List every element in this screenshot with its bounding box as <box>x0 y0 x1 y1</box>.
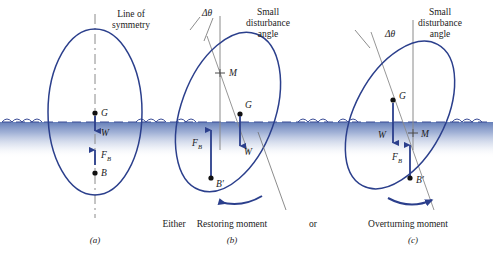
point-Bprime-c <box>407 175 412 180</box>
point-G-a <box>92 110 97 115</box>
label-G-c: G <box>399 91 406 101</box>
title-b-line1: Small <box>257 7 280 17</box>
label-W-c: W <box>378 130 387 140</box>
label-delta-theta-b: Δθ <box>201 8 213 18</box>
connector-either: Either <box>162 219 186 229</box>
title-b-line2: disturbance <box>246 18 290 28</box>
caption-a: (a) <box>90 235 101 245</box>
caption-b: (b) <box>227 235 238 245</box>
body-axis-c <box>371 32 434 210</box>
leader-delta-theta-b-right <box>204 18 213 41</box>
title-b-line3: angle <box>258 29 279 39</box>
label-M-b: M <box>228 68 238 78</box>
moment-label-c: Overturning moment <box>368 219 448 229</box>
caption-c: (c) <box>408 235 418 245</box>
title-c-line2: disturbance <box>418 18 462 28</box>
figure-canvas: Line of symmetry G W F B B (a) Small dis… <box>0 0 493 258</box>
label-F-c: F <box>391 152 398 162</box>
label-W-a: W <box>101 128 110 138</box>
overturning-moment-arrow <box>388 198 432 205</box>
point-G-c <box>390 97 395 102</box>
title-c-line1: Small <box>429 7 452 17</box>
connector-or: or <box>309 219 318 229</box>
panel-a: Line of symmetry G W F B B (a) <box>48 9 150 245</box>
label-F-a: F <box>100 150 107 160</box>
label-B-a: B <box>101 168 107 178</box>
label-delta-theta-c: Δθ <box>384 29 396 39</box>
hull-outline-b <box>155 18 300 206</box>
stability-diagram: Line of symmetry G W F B B (a) Small dis… <box>0 0 493 258</box>
label-F-subscript-c: B <box>398 157 402 164</box>
label-Bprime-c: B′ <box>416 175 425 185</box>
title-c-line3: angle <box>430 29 451 39</box>
label-W-b: W <box>244 147 253 157</box>
label-Bprime-b: B′ <box>216 179 225 189</box>
moment-label-b: Restoring moment <box>197 219 268 229</box>
label-M-c: M <box>420 129 430 139</box>
label-F-subscript-b: B <box>198 143 202 150</box>
label-F-subscript-a: B <box>107 155 111 162</box>
title-a-line2: symmetry <box>112 20 150 30</box>
restoring-moment-arrow <box>220 196 262 204</box>
label-F-b: F <box>191 138 198 148</box>
leader-delta-theta-c <box>355 30 370 48</box>
point-B-a <box>92 170 97 175</box>
point-G-b <box>237 111 242 116</box>
point-Bprime-b <box>208 175 213 180</box>
label-G-b: G <box>245 100 252 110</box>
title-a-line1: Line of <box>117 9 146 19</box>
leader-delta-theta-b-left <box>190 17 200 30</box>
label-G-a: G <box>101 108 108 118</box>
